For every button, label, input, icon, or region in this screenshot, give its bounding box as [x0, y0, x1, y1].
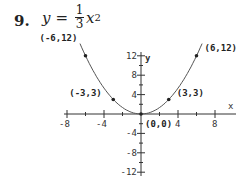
y-tick-label: 12 — [126, 51, 137, 61]
point-label: (3,3) — [177, 88, 204, 98]
data-point — [111, 98, 115, 102]
y-tick-label: 4 — [132, 90, 137, 100]
point-label: (-6,12) — [40, 33, 78, 43]
x-tick-label: -4 — [96, 119, 107, 129]
y-axis-label: y — [145, 53, 151, 63]
y-tick-label: -8 — [126, 148, 137, 158]
x-tick-label: 4 — [175, 119, 180, 129]
y-tick-label: -12 — [121, 167, 137, 177]
y-tick-label: -4 — [126, 128, 137, 138]
x-tick-label: -8 — [59, 119, 70, 129]
data-point — [139, 112, 143, 116]
y-tick-label: 8 — [132, 70, 137, 80]
x-tick-label: 8 — [212, 119, 217, 129]
point-label: (-3,3) — [69, 88, 102, 98]
data-point — [195, 54, 199, 58]
point-label: (0,0) — [145, 119, 172, 129]
parabola-graph: (-6,12)(-3,3)(0,0)(3,3)(6,12) x y -8-448… — [0, 0, 248, 186]
data-point — [167, 98, 171, 102]
data-point — [84, 54, 88, 58]
point-label: (6,12) — [205, 43, 238, 53]
x-axis-label: x — [228, 101, 234, 111]
